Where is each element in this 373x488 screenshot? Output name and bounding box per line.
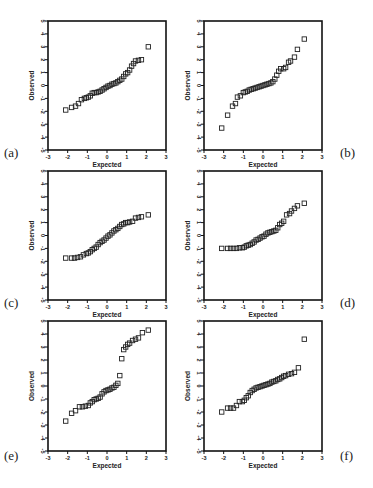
x-tick-label: 0 (261, 154, 264, 160)
x-tick-label: -1 (241, 304, 246, 310)
y-tick-label: -1 (40, 96, 46, 101)
y-tick-label: 0 (196, 234, 202, 237)
data-point (302, 337, 306, 341)
y-tick-label: -4 (196, 436, 202, 442)
y-tick-label: -2 (40, 410, 46, 415)
x-tick-label: -3 (202, 304, 207, 310)
y-tick-label: -3 (40, 423, 46, 428)
x-tick-label: 3 (164, 154, 167, 160)
y-tick-label: 1 (40, 221, 46, 224)
data-point (296, 366, 300, 370)
data-point (238, 94, 242, 98)
panel-label-a: (a) (4, 145, 18, 161)
x-tick-label: 1 (125, 455, 128, 461)
y-tick-label: 3 (196, 45, 202, 48)
y-tick-label: -4 (196, 135, 202, 141)
y-tick-label: 1 (196, 71, 202, 74)
data-point (228, 406, 232, 410)
qq-plot-b: -3-2-10123-5-4-3-2-1012345ExpectedObserv… (204, 21, 322, 150)
qq-plot-c: -3-2-10123-5-4-3-2-1012345ExpectedObserv… (48, 171, 166, 300)
plot-frame (204, 171, 322, 300)
data-point (146, 328, 150, 332)
x-tick-label: 0 (261, 304, 264, 310)
data-point (228, 246, 232, 250)
panel-label-d: (d) (340, 295, 355, 311)
data-point (120, 357, 124, 361)
data-point (133, 337, 137, 341)
y-tick-label: 5 (40, 19, 46, 22)
y-tick-label: -2 (196, 109, 202, 114)
x-tick-label: -3 (202, 455, 207, 461)
x-tick-label: -1 (85, 455, 90, 461)
y-tick-label: 0 (196, 84, 202, 87)
x-tick-label: 3 (320, 154, 323, 160)
x-axis-label: Expected (93, 161, 122, 169)
data-point (140, 331, 144, 335)
qq-plot-figure: -3-2-10123-5-4-3-2-1012345ExpectedObserv… (0, 0, 373, 488)
y-tick-label: -3 (196, 122, 202, 127)
y-tick-label: 5 (40, 169, 46, 172)
y-tick-label: -5 (196, 449, 202, 454)
y-tick-label: 1 (40, 71, 46, 74)
x-tick-label: 2 (301, 304, 304, 310)
y-axis-label: Observed (184, 220, 191, 250)
plot-frame (48, 321, 166, 451)
y-tick-label: -1 (196, 96, 202, 101)
x-tick-label: 0 (261, 455, 264, 461)
y-tick-label: 4 (40, 332, 46, 336)
x-tick-label: -1 (241, 154, 246, 160)
x-tick-label: -2 (65, 154, 70, 160)
data-point (146, 213, 150, 217)
y-tick-label: 4 (40, 182, 46, 186)
x-tick-label: 3 (320, 304, 323, 310)
qq-plot-a: -3-2-10123-5-4-3-2-1012345ExpectedObserv… (48, 21, 166, 150)
y-tick-label: 0 (40, 384, 46, 387)
y-tick-label: 3 (40, 45, 46, 48)
data-point (64, 108, 68, 112)
panel-label-b: (b) (340, 145, 355, 161)
data-point (136, 336, 140, 340)
x-tick-label: -1 (241, 455, 246, 461)
y-tick-label: 1 (40, 371, 46, 374)
panel-label-e: (e) (4, 448, 18, 464)
x-tick-label: 1 (281, 304, 284, 310)
x-tick-label: 1 (281, 154, 284, 160)
plot-area: -3-2-10123-5-4-3-2-1012345ExpectedObserv… (48, 21, 166, 150)
data-point (64, 419, 68, 423)
x-axis-label: Expected (249, 462, 278, 470)
y-tick-label: 5 (40, 319, 46, 322)
plot-area: -3-2-10123-5-4-3-2-1012345ExpectedObserv… (48, 171, 166, 300)
x-tick-label: -3 (46, 154, 51, 160)
x-tick-label: 2 (145, 154, 148, 160)
y-axis-label: Observed (184, 70, 191, 100)
y-tick-label: -5 (40, 148, 46, 153)
y-tick-label: 3 (40, 195, 46, 198)
x-axis-label: Expected (249, 161, 278, 169)
data-point (225, 113, 229, 117)
y-tick-label: 2 (196, 358, 202, 361)
x-tick-label: 1 (281, 455, 284, 461)
y-axis-label: Observed (184, 371, 191, 401)
x-tick-label: -1 (85, 304, 90, 310)
x-tick-label: 3 (164, 455, 167, 461)
y-tick-label: -3 (196, 423, 202, 428)
data-point (146, 45, 150, 49)
panel-label-f: (f) (340, 448, 353, 464)
x-tick-label: 2 (301, 455, 304, 461)
x-tick-label: -3 (202, 154, 207, 160)
data-point (231, 246, 235, 250)
y-tick-label: -3 (40, 272, 46, 277)
y-tick-label: 5 (196, 319, 202, 322)
plot-area: -3-2-10123-5-4-3-2-1012345ExpectedObserv… (48, 321, 166, 451)
y-tick-label: 4 (40, 32, 46, 36)
y-tick-label: 3 (196, 195, 202, 198)
x-tick-label: -2 (221, 455, 226, 461)
x-tick-label: -3 (46, 455, 51, 461)
data-point (284, 213, 288, 217)
data-point (235, 95, 239, 99)
y-tick-label: -5 (196, 148, 202, 153)
x-tick-label: 2 (145, 304, 148, 310)
data-point (69, 256, 73, 260)
y-tick-label: -1 (40, 246, 46, 251)
qq-plot-d: -3-2-10123-5-4-3-2-1012345ExpectedObserv… (204, 171, 322, 300)
